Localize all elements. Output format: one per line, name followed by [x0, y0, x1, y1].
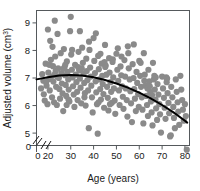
data-point [86, 125, 92, 131]
data-point [46, 62, 52, 68]
y-axis-title: Adjusted volume (cm [2, 35, 13, 128]
data-point [69, 47, 75, 53]
data-point [41, 91, 47, 97]
data-point [52, 53, 58, 59]
y-tick-label: 5 [25, 128, 30, 139]
data-point [52, 18, 58, 24]
data-point [91, 58, 97, 64]
data-point [115, 45, 121, 51]
data-point [131, 41, 137, 47]
y-tick-label: 8 [25, 45, 30, 56]
data-point [50, 78, 56, 84]
y-tick-label: 6 [25, 100, 30, 111]
data-point [45, 26, 51, 32]
data-point [105, 107, 111, 113]
data-point [153, 74, 159, 80]
y-axis-title-close: ) [2, 28, 13, 31]
data-point [90, 109, 96, 115]
data-point [130, 75, 136, 81]
data-point [182, 101, 188, 107]
y-tick-label: 7 [25, 72, 30, 83]
data-point [81, 94, 87, 100]
data-point [64, 102, 70, 108]
data-point [164, 75, 170, 81]
data-point [171, 115, 177, 121]
y-axis-origin-label: 0 [26, 141, 31, 152]
x-tick-label: 50 [111, 150, 122, 161]
data-point [141, 78, 147, 84]
data-point [149, 122, 155, 128]
data-point [93, 30, 99, 36]
data-point [38, 85, 44, 91]
data-point [129, 119, 135, 125]
x-tick-label: 20 [43, 150, 54, 161]
data-point [125, 50, 131, 56]
data-point [61, 46, 67, 52]
data-point [180, 107, 186, 113]
data-point [77, 28, 83, 34]
data-point [147, 83, 153, 89]
data-point [164, 90, 170, 96]
data-point [155, 91, 161, 97]
data-point [105, 95, 111, 101]
x-tick-label: 30 [65, 150, 76, 161]
data-point [47, 87, 53, 93]
data-point [71, 104, 77, 110]
data-point [120, 106, 126, 112]
data-point [178, 86, 184, 92]
data-point [176, 122, 182, 128]
data-point [112, 111, 118, 117]
data-point [79, 65, 85, 71]
data-point [60, 108, 66, 114]
data-point [145, 67, 151, 73]
data-point [150, 60, 156, 66]
data-point [79, 45, 85, 51]
data-point [83, 56, 89, 62]
data-point [168, 84, 174, 90]
data-point [86, 47, 92, 53]
data-point [141, 50, 147, 56]
data-point [97, 51, 103, 57]
data-point [86, 39, 92, 45]
data-point [184, 147, 190, 153]
data-point [157, 111, 163, 117]
data-point [177, 73, 183, 79]
data-point [96, 66, 102, 72]
data-point [165, 100, 171, 106]
y-axis-title-group: Adjusted volume (cm3) [2, 28, 14, 128]
data-point [124, 113, 130, 119]
data-point [162, 116, 168, 122]
data-point [183, 113, 189, 119]
data-point [138, 60, 144, 66]
data-point [39, 71, 45, 77]
data-point [168, 132, 174, 138]
x-axis-ticks: 020304050607080 [35, 146, 190, 162]
data-point [154, 81, 160, 87]
x-tick-label: 60 [134, 150, 145, 161]
data-point [142, 72, 148, 78]
svg-text:Adjusted volume (cm3): Adjusted volume (cm3) [2, 28, 14, 128]
data-point [87, 64, 93, 70]
data-point [47, 38, 53, 44]
data-point [54, 102, 60, 108]
data-point [54, 31, 60, 37]
chart-figure: 56789 020304050607080 Age (years) Adjust… [0, 0, 200, 191]
data-point [95, 131, 101, 137]
data-point [118, 53, 124, 59]
scatter-plot: 56789 020304050607080 Age (years) Adjust… [0, 0, 200, 191]
data-point [67, 28, 73, 34]
data-point [49, 44, 55, 50]
data-point [68, 14, 74, 20]
x-tick-label: 40 [88, 150, 99, 161]
data-point [160, 85, 166, 91]
data-point [107, 101, 113, 107]
data-point [125, 43, 131, 49]
data-point [140, 120, 146, 126]
data-point [83, 102, 89, 108]
data-point [106, 69, 112, 75]
x-tick-label: 70 [157, 150, 168, 161]
data-point [96, 99, 102, 105]
data-point [169, 94, 175, 100]
data-point [62, 62, 68, 68]
data-point [110, 56, 116, 62]
